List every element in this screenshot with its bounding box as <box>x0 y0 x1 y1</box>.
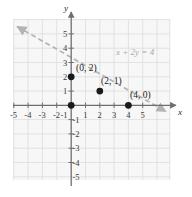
y-tick-label-neg2: -2 <box>73 130 80 139</box>
x-tick-label-4: 4 <box>126 111 130 120</box>
y-tick-label-2: 2 <box>63 73 67 82</box>
coordinate-plane-svg <box>0 0 192 197</box>
x-tick-label-2: 2 <box>98 111 102 120</box>
y-axis-label: y <box>64 4 68 13</box>
y-tick-label-neg5: -5 <box>73 173 80 182</box>
x-tick-label-3: 3 <box>112 111 116 120</box>
x-tick-label-1: 1 <box>83 111 87 120</box>
data-point-0-2 <box>68 73 75 80</box>
x-tick-label-neg1: -1 <box>61 111 68 120</box>
x-tick-label-neg3: -3 <box>39 111 46 120</box>
x-tick-label-neg5: -5 <box>10 111 17 120</box>
origin-point <box>68 102 75 109</box>
graph-figure: -5 -4 -3 -2 -1 1 2 3 4 5 5 4 3 2 1 -1 -2… <box>0 0 192 197</box>
x-axis-label: x <box>178 108 182 117</box>
point-label-0-2: (0, 2) <box>76 64 97 74</box>
y-tick-label-3: 3 <box>63 59 67 68</box>
y-tick-label-4: 4 <box>63 44 67 53</box>
x-tick-label-5: 5 <box>141 111 145 120</box>
y-tick-label-neg1: -1 <box>73 116 80 125</box>
y-tick-label-neg4: -4 <box>73 159 80 168</box>
point-label-2-1: (2, 1) <box>101 77 122 87</box>
y-tick-label-5: 5 <box>63 30 67 39</box>
y-tick-label-neg3: -3 <box>73 144 80 153</box>
data-point-2-1 <box>96 88 103 95</box>
x-tick-label-neg2: -2 <box>53 111 60 120</box>
x-tick-label-neg4: -4 <box>24 111 31 120</box>
y-tick-label-1: 1 <box>63 87 67 96</box>
point-label-4-0: (4, 0) <box>130 91 151 101</box>
data-point-4-0 <box>125 102 132 109</box>
equation-label: x + 2y = 4 <box>116 48 154 57</box>
